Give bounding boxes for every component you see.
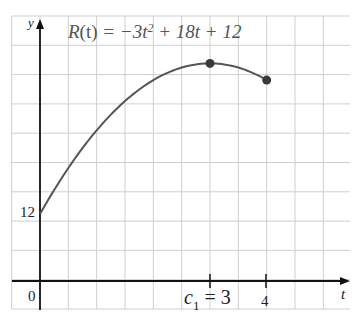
function-label: R(t) = −3t2 + 18t + 12: [68, 22, 241, 41]
y-axis-label: y: [28, 16, 34, 29]
x-tick-label-4: 4: [261, 294, 269, 309]
point-endpoint: [262, 76, 271, 85]
t-axis-label: t: [341, 287, 345, 302]
chart-canvas: [0, 0, 356, 321]
y-axis-arrow-icon: [36, 19, 44, 29]
axes: [12, 19, 350, 310]
origin-label: 0: [28, 289, 36, 304]
x-tick-label-c1: c1 = 3: [184, 287, 231, 312]
grid-lines: [12, 16, 350, 309]
point-maximum: [206, 59, 215, 68]
y-tick-label-12: 12: [20, 205, 35, 220]
t-axis-arrow-icon: [340, 277, 350, 285]
